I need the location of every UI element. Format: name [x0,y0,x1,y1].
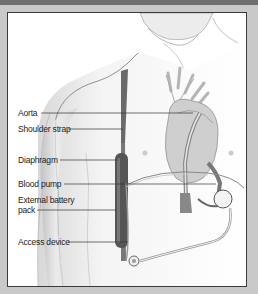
diagram-panel: Aorta Shoulder strap Diaphragm Blood pum… [7,12,247,287]
label-pack: pack [18,205,35,215]
label-blood-pump: Blood pump [18,179,61,189]
label-shoulder-strap: Shoulder strap [18,124,70,134]
top-band [0,0,258,5]
label-diaphragm: Diaphragm [18,155,58,165]
label-aorta: Aorta [18,108,37,118]
label-external-battery: External battery [18,195,74,205]
label-access-device: Access device [18,237,70,247]
